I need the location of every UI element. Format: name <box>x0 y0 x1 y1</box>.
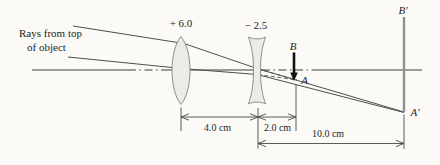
point-b-label: B <box>290 40 297 52</box>
diverging-lens-label: − 2.5 <box>245 19 268 31</box>
ray-top-2 <box>68 57 404 113</box>
rays-note-line2: of object <box>27 41 66 53</box>
dimension-2cm-label: 2.0 cm <box>264 122 291 133</box>
dimension-4cm <box>181 114 258 120</box>
diagram-canvas: Rays from top of object + 6.0 − 2.5 B A … <box>0 0 440 165</box>
converging-lens <box>172 37 190 105</box>
dimension-4cm-label: 4.0 cm <box>204 122 231 133</box>
intermediate-image-arrow <box>290 53 298 82</box>
point-a-label: A <box>300 74 308 86</box>
dimension-2cm <box>258 114 296 120</box>
point-a-prime-label: A′ <box>409 106 420 118</box>
converging-lens-label: + 6.0 <box>170 17 193 29</box>
dimension-10cm <box>258 140 404 146</box>
dimension-10cm-label: 10.0 cm <box>312 128 344 139</box>
point-b-prime-label: B′ <box>398 4 408 16</box>
virtual-ray-dashed-2 <box>258 75 297 81</box>
ray-top-1 <box>73 26 404 112</box>
rays-note-line1: Rays from top <box>19 27 82 39</box>
optics-diagram: Rays from top of object + 6.0 − 2.5 B A … <box>0 0 440 165</box>
